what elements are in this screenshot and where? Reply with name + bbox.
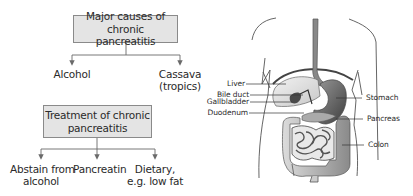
cause-item-cassava: Cassava (tropics) [158,68,202,92]
label-pancreas: Pancreas [367,115,400,123]
label-duodenum: Duodenum [200,109,248,117]
treatment-title-line2: pancreatitis [45,122,150,135]
treatment-item-dietary: Dietary, e.g. low fat [127,163,183,187]
causes-title-box: Major causes of chronic pancreatitis [73,15,178,43]
label-stomach: Stomach [366,94,398,102]
causes-title-line1: Major causes of chronic [74,10,177,35]
treatment-item-abstain: Abstain from alcohol [10,163,72,187]
label-liver: Liver [200,80,245,88]
causes-title-line2: pancreatitis [74,35,177,48]
treatment-title-box: Treatment of chronic pancreatitis [43,105,152,138]
label-colon: Colon [368,141,389,149]
treatment-title-line1: Treatment of chronic [45,109,150,122]
treatment-item-pancreatin: Pancreatin [73,163,121,175]
label-gallbladder: Gallbladder [200,98,249,106]
cause-item-alcohol: Alcohol [52,68,92,80]
